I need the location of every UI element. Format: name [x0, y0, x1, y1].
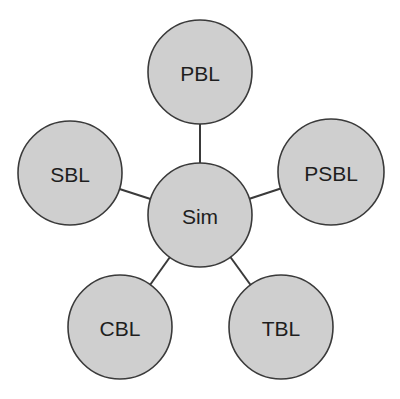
node-label: TBL [262, 317, 301, 340]
node-label: Sim [182, 205, 218, 228]
node-psbl: PSBL [278, 119, 384, 225]
node-label: PBL [180, 62, 220, 85]
node-label: PSBL [304, 162, 358, 185]
node-tbl: TBL [229, 275, 333, 379]
node-label: SBL [50, 163, 90, 186]
node-sbl: SBL [18, 121, 122, 225]
node-pbl: PBL [148, 20, 252, 124]
node-label: CBL [100, 317, 141, 340]
node-cbl: CBL [68, 275, 172, 379]
hub-spoke-diagram: SimPBLSBLPSBLCBLTBL [0, 0, 400, 399]
node-sim: Sim [148, 163, 252, 267]
nodes: SimPBLSBLPSBLCBLTBL [18, 20, 384, 379]
